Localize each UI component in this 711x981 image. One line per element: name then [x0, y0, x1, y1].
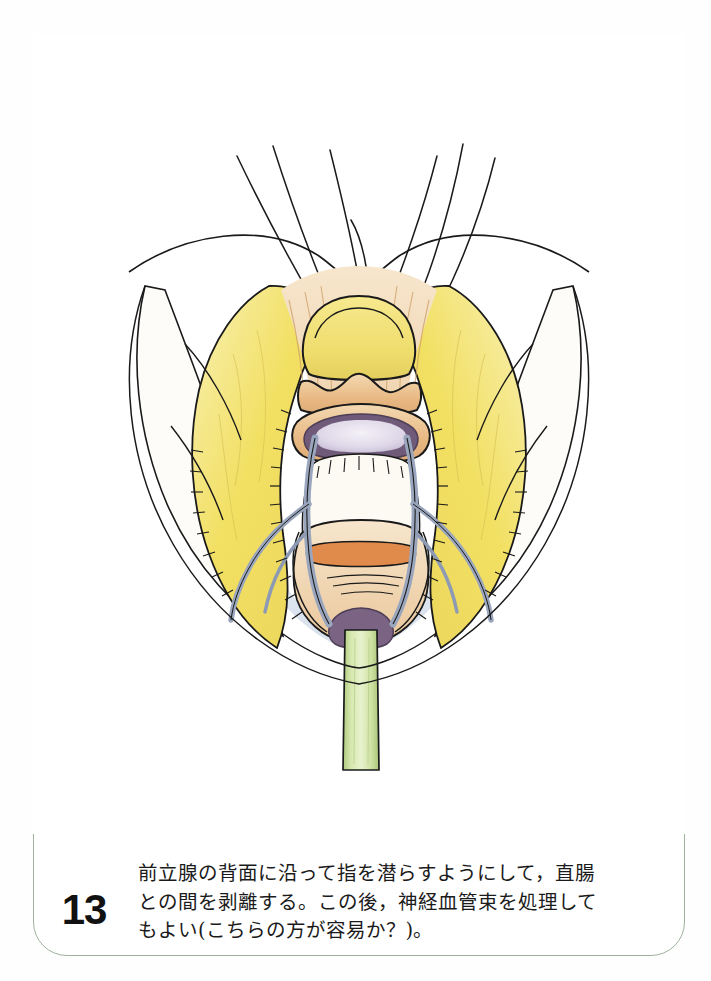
urethral-lumen [316, 420, 407, 453]
figure-caption-text: 前立腺の背面に沿って指を潜らすようにして，直腸 との間を剥離する。この後，神経血… [138, 860, 663, 946]
urethral-catheter [343, 630, 379, 770]
page-root: 13 前立腺の背面に沿って指を潜らすようにして，直腸 との間を剥離する。この後，… [0, 0, 711, 981]
rectourethralis-muscle-band [307, 542, 416, 567]
caption-block: 13 前立腺の背面に沿って指を潜らすようにして，直腸 との間を剥離する。この後，… [33, 855, 685, 955]
figure-number: 13 [38, 889, 130, 931]
surgical-illustration [33, 34, 685, 834]
illustration-svg [33, 34, 685, 834]
